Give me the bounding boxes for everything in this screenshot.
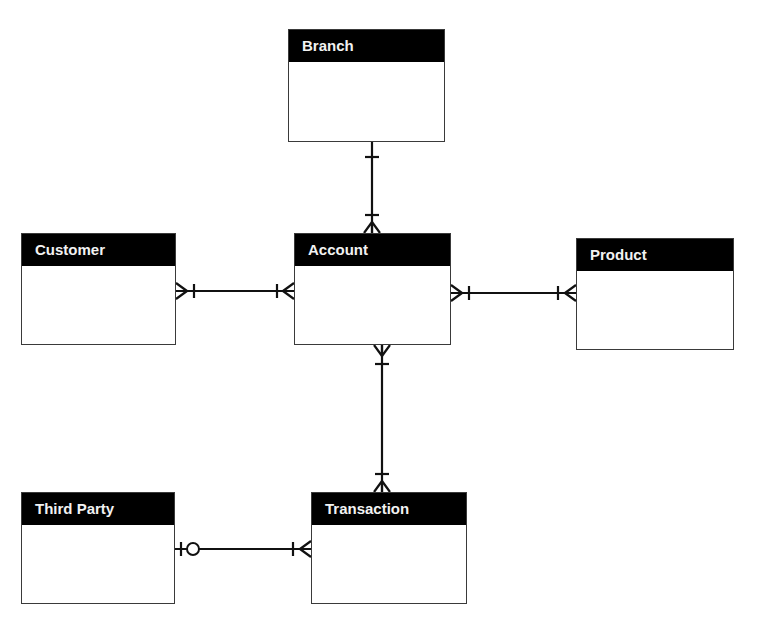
entity-body xyxy=(577,271,733,349)
entity-third-party[interactable]: Third Party xyxy=(21,492,175,604)
relationship-account-product xyxy=(451,285,576,301)
entity-title: Account xyxy=(295,234,450,266)
relationship-account-transaction xyxy=(374,345,390,492)
entity-body xyxy=(22,525,174,603)
entity-customer[interactable]: Customer xyxy=(21,233,176,345)
entity-body xyxy=(295,266,450,344)
entity-title: Branch xyxy=(289,30,444,62)
entity-branch[interactable]: Branch xyxy=(288,29,445,142)
entity-title: Transaction xyxy=(312,493,466,525)
entity-title: Third Party xyxy=(22,493,174,525)
entity-title: Customer xyxy=(22,234,175,266)
relationship-customer-account xyxy=(176,283,294,299)
entity-body xyxy=(289,62,444,141)
entity-body xyxy=(22,266,175,344)
entity-transaction[interactable]: Transaction xyxy=(311,492,467,604)
entity-body xyxy=(312,525,466,603)
relationship-branch-account xyxy=(364,142,380,233)
relationship-thirdparty-transaction xyxy=(175,541,311,557)
entity-account[interactable]: Account xyxy=(294,233,451,345)
entity-title: Product xyxy=(577,239,733,271)
entity-product[interactable]: Product xyxy=(576,238,734,350)
